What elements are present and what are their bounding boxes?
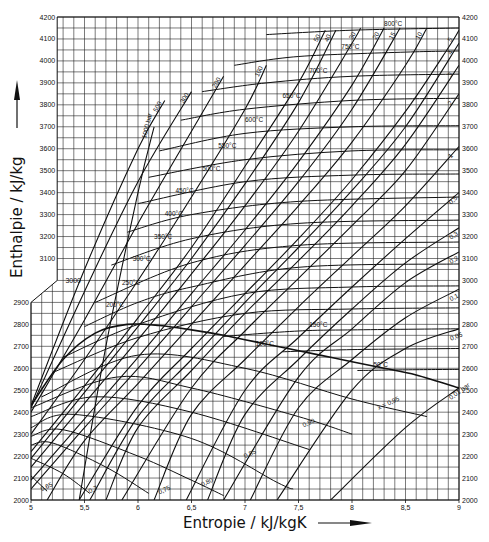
y-tick-label-left: 2500: [13, 387, 29, 394]
y-tick-label-right: 2600: [462, 365, 478, 372]
y-tick-label-left: 2200: [13, 453, 29, 460]
y-tick-label-left: 2700: [13, 343, 29, 350]
y-axis-title: Enthalpie / kJ/kg: [8, 156, 26, 278]
y-tick-label-right: 3700: [462, 123, 478, 130]
y-tick-label-left: 3400: [40, 189, 56, 196]
y-tick-label-left: 3900: [40, 79, 56, 86]
isotherm-label: 350°C: [154, 233, 172, 240]
isobar-line: [31, 30, 325, 452]
isotherm-label: 100°C: [256, 340, 274, 347]
y-tick-label-right: 3100: [462, 255, 478, 262]
isobar-label: 0,3: [448, 230, 460, 241]
isotherm-label: 700°C: [309, 67, 327, 74]
y-tick-label-right: 2800: [462, 321, 478, 328]
isotherm-label: 250°C: [122, 279, 140, 286]
isobar-line: [154, 147, 459, 501]
y-tick-label-left: 3600: [40, 145, 56, 152]
isotherm-label: 150°C: [309, 321, 327, 328]
y-tick-label-right: 2300: [462, 431, 478, 438]
y-tick-label-right: 3400: [462, 189, 478, 196]
y-tick-label-right: 4000: [462, 57, 478, 64]
y-tick-label-right: 2500: [462, 387, 478, 394]
isotherm-line: [85, 264, 460, 327]
y-tick-label-left: 4100: [40, 35, 56, 42]
isotherm-label: 50°C: [373, 361, 388, 368]
y-tick-label-right: 3300: [462, 211, 478, 218]
isotherm-label: 550°C: [218, 142, 236, 149]
x-tick-label: 5,5: [80, 504, 90, 511]
quality-label: 0,7: [87, 484, 98, 494]
isobar-label: 0,2: [448, 254, 460, 265]
isotherm-label: 650°C: [282, 92, 300, 99]
y-tick-label-right: 2200: [462, 453, 478, 460]
y-tick-label-right: 3500: [462, 167, 478, 174]
y-tick-label-right: 3600: [462, 145, 478, 152]
isobar-line: [90, 43, 459, 500]
isotherm-label: 200°C: [106, 301, 124, 308]
y-tick-label-right: 2400: [462, 409, 478, 416]
curve-labels: 1000 bar500300200100504030201510543210,5…: [39, 20, 471, 496]
y-tick-label-left: 2400: [13, 409, 29, 416]
quality-label: 0,75: [157, 484, 172, 496]
y-tick-label-left: 4000: [40, 57, 56, 64]
isotherm-label: 600°C: [245, 116, 263, 123]
y-tick-label-left: 3300: [40, 211, 56, 218]
isobar-label: 0,05: [449, 331, 464, 342]
isotherm-label: 400°C: [165, 210, 183, 217]
y-tick-label-right: 3200: [462, 233, 478, 240]
isotherm-label: 800°C: [384, 20, 402, 27]
x-tick-label: 6: [136, 504, 140, 511]
isobar-label: 0,1: [448, 292, 460, 303]
axes: 55,566,577,588,5920002100220023002400250…: [13, 14, 477, 512]
x-tick-label: 9: [457, 504, 461, 511]
x-tick-label: 6,5: [187, 504, 197, 511]
isobar-line: [250, 289, 459, 500]
y-tick-label-right: 2000: [462, 497, 478, 504]
y-tick-label-right: 4100: [462, 35, 478, 42]
x-tick-label: 7: [243, 504, 247, 511]
y-tick-label-left: 3100: [40, 255, 56, 262]
y-tick-label-left: 2100: [13, 475, 29, 482]
y-tick-label-right: 3900: [462, 79, 478, 86]
y-tick-label-left: 2800: [13, 321, 29, 328]
x-tick-label: 8,5: [401, 504, 411, 511]
x-tick-label: 7,5: [294, 504, 304, 511]
isotherm-label: 450°C: [175, 187, 193, 194]
y-tick-label-right: 2900: [462, 299, 478, 306]
y-tick-label-left: 2900: [13, 299, 29, 306]
y-tick-label-right: 2100: [462, 475, 478, 482]
y-tick-label-left: 4200: [40, 14, 56, 21]
isotherm-label: 300°C: [133, 255, 151, 262]
y-tick-label-left: 2600: [13, 365, 29, 372]
y-tick-label-right: 2700: [462, 343, 478, 350]
y-tick-label-left: 3000: [65, 277, 81, 284]
isotherm-line: [149, 150, 459, 178]
quality-label: 0,85: [242, 447, 257, 459]
y-tick-label-left: 2300: [13, 431, 29, 438]
x-tick-label: 5: [29, 504, 33, 511]
x-axis-arrow: [318, 520, 372, 526]
y-tick-label-left: 3500: [40, 167, 56, 174]
mollier-diagram: 1000 bar500300200100504030201510543210,5…: [0, 0, 489, 542]
y-tick-label-right: 3800: [462, 101, 478, 108]
x-axis-title: Entropie / kJ/kgK: [183, 514, 308, 532]
quality-label: 0,80: [200, 476, 215, 488]
x-tick-label: 8: [350, 504, 354, 511]
isobar-label: 100: [253, 65, 264, 78]
isotherm-label: 750°C: [341, 43, 359, 50]
y-tick-label-left: 3200: [40, 233, 56, 240]
y-axis-arrow: [14, 80, 20, 128]
y-tick-label-right: 3000: [462, 277, 478, 284]
isotherm-label: 500°C: [202, 165, 220, 172]
isobar-label: 2: [446, 99, 454, 106]
y-tick-label-left: 3700: [40, 123, 56, 130]
y-tick-label-right: 4200: [462, 14, 478, 21]
y-tick-label-left: 2000: [13, 497, 29, 504]
y-tick-label-left: 3800: [40, 101, 56, 108]
